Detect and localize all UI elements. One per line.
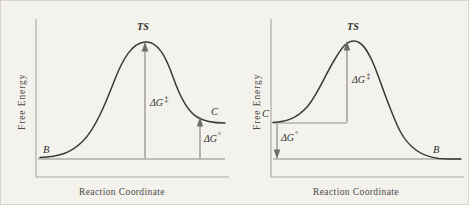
delta-g-text: ΔG: [203, 133, 217, 144]
state-label-b: B: [433, 144, 440, 155]
state-label-c: C: [262, 108, 270, 119]
activation-energy-arrow-head: [142, 42, 149, 52]
y-axis-title: Free Energy: [252, 74, 262, 130]
activation-energy-label: ΔG‡: [351, 72, 371, 85]
delta-g-text: ΔG: [149, 97, 163, 108]
reaction-coordinate-curve: [40, 42, 225, 158]
delta-g-text: ΔG: [280, 132, 294, 143]
right-chart-svg: C TS B ΔG‡ ΔG° Free Energy Reaction Coor…: [235, 1, 469, 205]
x-axis-title: Reaction Coordinate: [79, 187, 165, 197]
state-label-b: B: [43, 144, 50, 155]
free-energy-change-label: ΔG°: [203, 131, 221, 144]
panel-endergonic-profile: B TS C ΔG‡ ΔG° Free Energy Reaction Coor…: [1, 1, 235, 205]
svg-text:ΔG‡: ΔG‡: [351, 72, 371, 85]
delta-g-text: ΔG: [351, 74, 365, 85]
panel-exergonic-profile: C TS B ΔG‡ ΔG° Free Energy Reaction Coor…: [235, 1, 469, 205]
left-chart-svg: B TS C ΔG‡ ΔG° Free Energy Reaction Coor…: [1, 1, 235, 205]
reaction-coordinate-curve: [273, 41, 461, 159]
x-axis-title: Reaction Coordinate: [313, 187, 399, 197]
figure-frame: B TS C ΔG‡ ΔG° Free Energy Reaction Coor…: [0, 0, 469, 205]
state-label-ts: TS: [347, 21, 359, 32]
state-label-c: C: [211, 106, 219, 117]
free-energy-change-label: ΔG°: [280, 130, 298, 143]
y-axis-title: Free Energy: [17, 74, 27, 130]
degree-superscript: °: [295, 130, 298, 139]
svg-text:ΔG°: ΔG°: [280, 130, 298, 143]
state-label-ts: TS: [137, 21, 149, 32]
svg-text:ΔG°: ΔG°: [203, 131, 221, 144]
svg-text:ΔG‡: ΔG‡: [149, 95, 169, 108]
activation-energy-label: ΔG‡: [149, 95, 169, 108]
degree-superscript: °: [218, 131, 221, 140]
free-energy-change-arrow-head: [274, 150, 281, 160]
double-dagger-superscript: ‡: [367, 72, 371, 81]
double-dagger-superscript: ‡: [165, 95, 169, 104]
free-energy-change-arrow-head: [197, 117, 203, 127]
